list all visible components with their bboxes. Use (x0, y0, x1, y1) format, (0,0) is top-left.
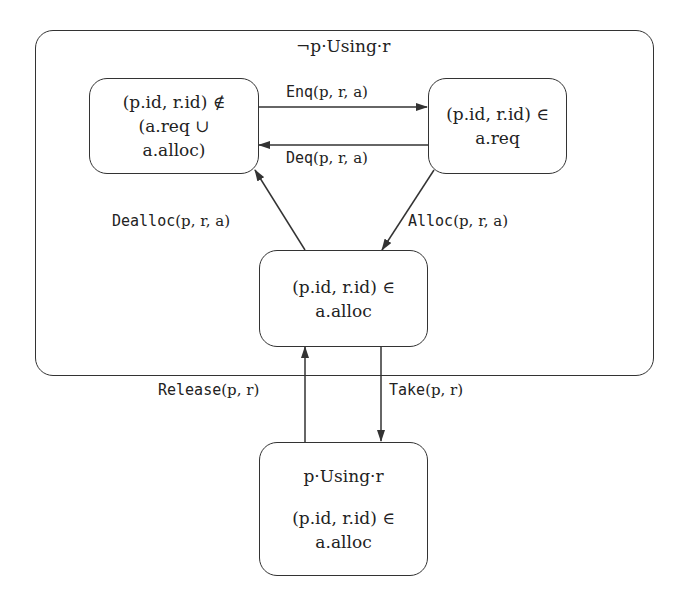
alloc-label: Alloc(p, r, a) (408, 212, 508, 230)
state-line: a.alloc (315, 530, 371, 554)
state-line: a.req (475, 126, 520, 150)
state-line: a.alloc (315, 299, 371, 323)
deq-label: Deq(p, r, a) (286, 149, 368, 167)
state-line: (p.id, r.id) ∉ (123, 90, 226, 114)
release-label: Release(p, r) (158, 381, 259, 399)
alloc-arrow (382, 170, 434, 250)
state-line: (p.id, r.id) ∈ (292, 275, 395, 299)
state-using: p·Using·r (p.id, r.id) ∈ a.alloc (259, 442, 428, 576)
take-label: Take(p, r) (389, 381, 463, 399)
state-title: p·Using·r (303, 464, 383, 488)
state-line: a.alloc) (143, 138, 206, 162)
state-line: (a.req ∪ (139, 114, 210, 138)
state-line: (p.id, r.id) ∈ (292, 506, 395, 530)
state-requested: (p.id, r.id) ∈ a.req (428, 78, 567, 174)
state-not-requested: (p.id, r.id) ∉ (a.req ∪ a.alloc) (89, 78, 259, 174)
state-allocated: (p.id, r.id) ∈ a.alloc (259, 250, 428, 347)
dealloc-label: Dealloc(p, r, a) (112, 212, 230, 230)
state-line: (p.id, r.id) ∈ (446, 102, 549, 126)
enq-label: Enq(p, r, a) (286, 83, 368, 101)
dealloc-arrow (255, 170, 305, 250)
